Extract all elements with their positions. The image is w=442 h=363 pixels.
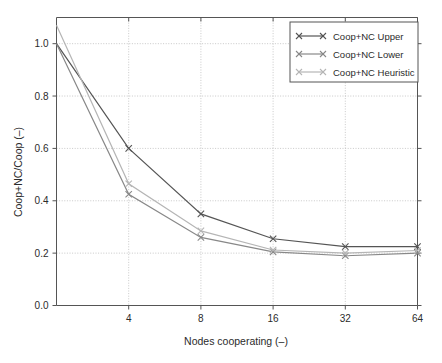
y-tick-label: 0.6 (35, 143, 49, 154)
x-axis-label: Nodes cooperating (–) (184, 335, 288, 347)
chart-legend: Coop+NC UpperCoop+NC LowerCoop+NC Heuris… (290, 22, 418, 82)
y-tick-label: 0.0 (35, 300, 49, 311)
x-tick-label: 32 (340, 313, 352, 324)
line-chart: 0.00.20.40.60.81.0 48163264 Nodes cooper… (0, 0, 442, 363)
x-tick-label: 8 (198, 313, 204, 324)
y-tick-label: 0.2 (35, 248, 49, 259)
y-tick-label: 0.8 (35, 91, 49, 102)
x-tick-label: 64 (412, 313, 424, 324)
legend-item-label: Coop+NC Heuristic (333, 67, 415, 78)
y-tick-label: 0.4 (35, 195, 49, 206)
chart-figure: 0.00.20.40.60.81.0 48163264 Nodes cooper… (0, 0, 442, 363)
y-axis-label: Coop+NC/Coop (–) (12, 127, 24, 217)
y-tick-label: 1.0 (35, 38, 49, 49)
x-tick-label: 16 (268, 313, 280, 324)
legend-item-label: Coop+NC Upper (333, 31, 404, 42)
x-tick-label: 4 (126, 313, 132, 324)
legend-item-label: Coop+NC Lower (333, 49, 404, 60)
